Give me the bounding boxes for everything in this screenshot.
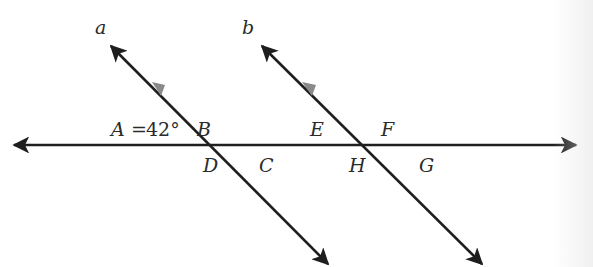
- angle-a-name: A: [109, 118, 125, 140]
- parallel-lines-diagram: a b A = 42° B D C E F H G: [0, 0, 593, 267]
- angle-f-label: F: [380, 118, 395, 140]
- angle-g-label: G: [419, 154, 434, 176]
- angle-e-label: E: [309, 118, 324, 140]
- angle-c-label: C: [259, 154, 274, 176]
- angle-b-label: B: [196, 118, 211, 140]
- diagram-canvas: a b A = 42° B D C E F H G: [0, 0, 593, 267]
- angle-a-value: 42°: [146, 118, 180, 140]
- angle-a-label: A = 42°: [109, 118, 180, 140]
- line-b-label: b: [242, 16, 254, 38]
- angle-h-label: H: [348, 154, 366, 176]
- angle-a-equals: =: [131, 118, 147, 140]
- line-a-label: a: [95, 16, 106, 38]
- angle-d-label: D: [202, 154, 218, 176]
